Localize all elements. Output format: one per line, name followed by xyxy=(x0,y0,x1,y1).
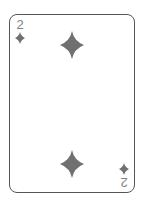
corner-index-bottom: 2 xyxy=(119,163,129,189)
rank-label: 2 xyxy=(15,18,25,31)
diamond-icon xyxy=(119,163,129,175)
diamond-icon xyxy=(60,31,84,59)
playing-card[interactable]: 2 2 xyxy=(9,14,135,193)
corner-index-top: 2 xyxy=(15,18,25,44)
diamond-icon xyxy=(15,32,25,44)
rank-label: 2 xyxy=(119,176,129,189)
diamond-icon xyxy=(60,150,84,178)
